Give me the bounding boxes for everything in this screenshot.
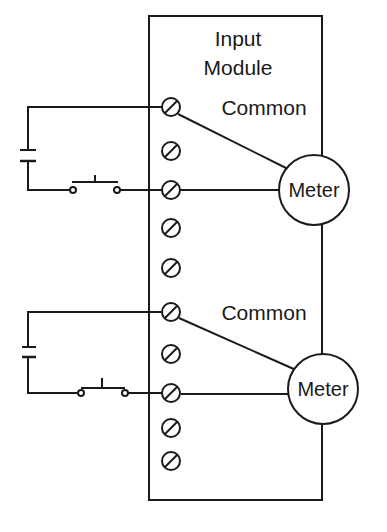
terminal-screw-icon <box>162 98 180 116</box>
input-module-box <box>149 16 322 500</box>
module-title-line1: Input <box>215 27 262 50</box>
terminal-screw-icon <box>162 384 180 402</box>
switch-contact-left <box>70 187 76 193</box>
terminal-screw-icon <box>162 142 180 160</box>
terminal-screw-icon <box>162 419 180 437</box>
circuit-2-wiring <box>22 312 296 396</box>
module-title-line2: Module <box>204 56 273 79</box>
terminal-screw-icon <box>162 345 180 363</box>
terminal-screw-icon <box>162 219 180 237</box>
terminal-screw-icon <box>162 181 180 199</box>
terminal-screw-icon <box>162 452 180 470</box>
terminal-strip <box>162 98 180 470</box>
terminal-screw-icon <box>162 303 180 321</box>
wiring-diagram: Input Module Common Common Meter Meter <box>0 0 387 532</box>
switch-contact-right <box>122 390 128 396</box>
switch-contact-left <box>78 390 84 396</box>
common-label-1: Common <box>221 96 306 119</box>
meter-1-label: Meter <box>288 179 339 201</box>
common-label-2: Common <box>221 301 306 324</box>
terminal-screw-icon <box>162 259 180 277</box>
switch-contact-right <box>114 187 120 193</box>
meter-2-label: Meter <box>297 378 348 400</box>
